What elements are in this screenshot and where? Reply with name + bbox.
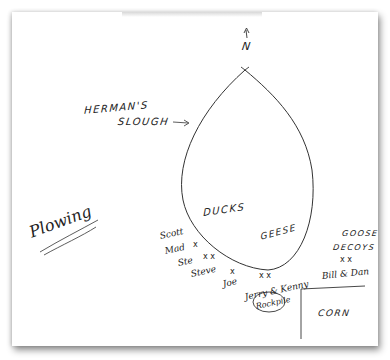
hunter-joe-marker: x bbox=[230, 268, 235, 276]
slough-outline bbox=[182, 70, 314, 270]
map-drawing bbox=[0, 0, 390, 360]
goose-decoy-markers: x x bbox=[340, 256, 352, 264]
north-label: N bbox=[241, 41, 251, 52]
goose-decoys-label-line1: GOOSE bbox=[341, 230, 379, 238]
north-arrow-icon bbox=[244, 28, 249, 38]
slough-pointer-arrow-icon bbox=[173, 120, 189, 126]
slough-label-line2: SLOUGH bbox=[117, 117, 169, 127]
hunter-mad-marker: x bbox=[193, 241, 198, 249]
hunter-ste-marker: x x bbox=[203, 253, 215, 261]
hunter-jerry-kenny-markers: x x bbox=[259, 272, 271, 280]
goose-decoys-label-line2: DECOYS bbox=[332, 244, 375, 252]
corn-label: CORN bbox=[317, 309, 351, 318]
